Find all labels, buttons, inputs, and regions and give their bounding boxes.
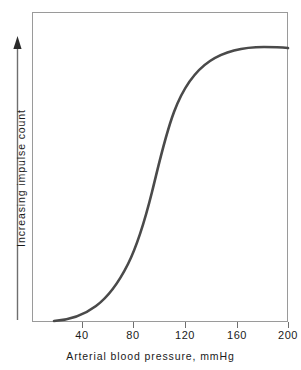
y-axis-title: Increasing impulse count — [14, 36, 28, 320]
x-tick-40 — [82, 322, 83, 328]
chart-figure: 40 80 120 160 200 Arterial blood pressur… — [0, 0, 301, 370]
x-tick-200 — [288, 322, 289, 328]
sigmoid-curve — [32, 12, 289, 323]
x-tick-120 — [185, 322, 186, 328]
x-tick-label-200: 200 — [266, 329, 301, 341]
x-axis-title: Arterial blood pressure, mmHg — [0, 350, 301, 362]
x-tick-160 — [237, 322, 238, 328]
x-tick-label-120: 120 — [163, 329, 207, 341]
x-tick-80 — [133, 322, 134, 328]
x-tick-label-40: 40 — [60, 329, 104, 341]
x-tick-label-80: 80 — [111, 329, 155, 341]
x-tick-label-160: 160 — [215, 329, 259, 341]
